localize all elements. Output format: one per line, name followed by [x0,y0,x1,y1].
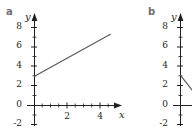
panel-a-data-line [35,34,111,76]
panel-b-y-axis-arrow [178,13,184,21]
panel-a-y-axis-arrow [32,13,38,21]
panel-a: a y x 8 6 4 2 0 -2 2 4 [0,0,130,129]
panel-b-plot [140,0,192,129]
figure-canvas: a y x 8 6 4 2 0 -2 2 4 [0,0,192,129]
panel-b: b y 8 6 4 2 0 -2 [140,0,192,129]
panel-b-data-line [181,75,193,90]
panel-a-plot [0,0,130,129]
panel-a-x-axis-arrow [114,103,122,109]
